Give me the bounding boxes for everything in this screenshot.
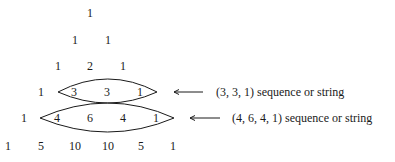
annotation-label-row-4: (4, 6, 4, 1) sequence or string	[232, 111, 372, 126]
annotation-label-row-3: (3, 3, 1) sequence or string	[216, 85, 344, 100]
cell-highlighted: 1	[153, 111, 159, 126]
cell: 5	[138, 139, 144, 154]
cell: 10	[102, 139, 114, 154]
cell-highlighted: 4	[120, 111, 126, 126]
diagram-lines	[0, 0, 395, 162]
cell: 1	[120, 59, 126, 74]
cell: 1	[87, 6, 93, 21]
cell-highlighted: 6	[87, 111, 93, 126]
cell-highlighted: 4	[54, 111, 60, 126]
cell-highlighted: 1	[137, 85, 143, 100]
cell-highlighted: 3	[104, 85, 110, 100]
cell: 1	[55, 59, 61, 74]
cell: 10	[69, 139, 81, 154]
cell: 1	[72, 33, 78, 48]
cell-highlighted: 3	[71, 85, 77, 100]
arrow-icon	[174, 90, 220, 121]
cell: 2	[87, 59, 93, 74]
cell: 5	[38, 139, 44, 154]
cell: 1	[21, 111, 27, 126]
cell: 1	[38, 85, 44, 100]
cell: 1	[105, 33, 111, 48]
cell: 1	[5, 139, 11, 154]
cell: 1	[170, 139, 176, 154]
